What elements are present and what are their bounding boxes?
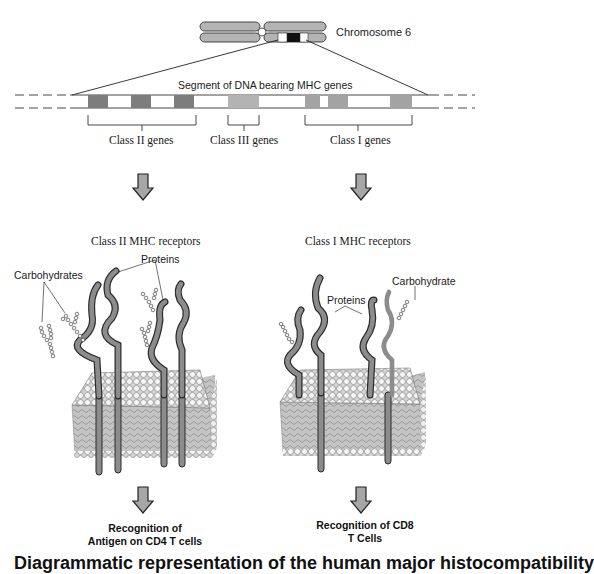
class-i-membrane-graphic [279, 278, 426, 472]
class-i-outcome: Recognition of CD8 T Cells [305, 519, 425, 545]
down-arrow-icon [351, 487, 371, 513]
class-ii-receptors-title: Class II MHC receptors [91, 235, 201, 247]
dna-segment-graphic [15, 95, 475, 131]
class-i-outcome-line-1: Recognition of CD8 [305, 519, 425, 532]
dna-segment-label: Segment of DNA bearing MHC genes [178, 79, 353, 91]
down-arrow-icon [133, 174, 153, 200]
class-i-genes-label: Class I genes [330, 134, 391, 146]
class-ii-outcome-line-1: Recognition of [80, 522, 210, 535]
class-i-receptors-title: Class I MHC receptors [305, 235, 411, 247]
class-ii-membrane-graphic [39, 260, 217, 475]
carbohydrates-label: Carbohydrates [14, 269, 83, 281]
down-arrow-icon [351, 174, 371, 200]
down-arrow-icon [133, 487, 153, 513]
class-ii-outcome-line-2: Antigen on CD4 T cells [80, 535, 210, 548]
class-ii-genes-label: Class II genes [109, 134, 174, 146]
carbohydrate-label: Carbohydrate [392, 275, 456, 287]
class-i-proteins-label: Proteins [327, 294, 366, 306]
class-iii-genes-label: Class III genes [210, 134, 278, 146]
class-i-outcome-line-2: T Cells [305, 532, 425, 545]
class-ii-outcome: Recognition of Antigen on CD4 T cells [80, 522, 210, 548]
class-ii-proteins-label: Proteins [141, 253, 180, 265]
chromosome-label: Chromosome 6 [336, 26, 411, 38]
figure-caption: Diagrammatic representation of the human… [14, 553, 594, 574]
